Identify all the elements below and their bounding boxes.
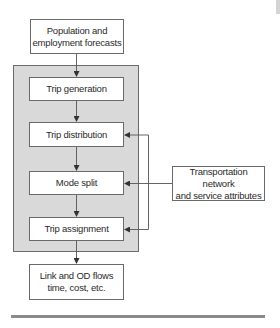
bottom-rule (11, 315, 265, 318)
connector-lines (0, 0, 280, 328)
